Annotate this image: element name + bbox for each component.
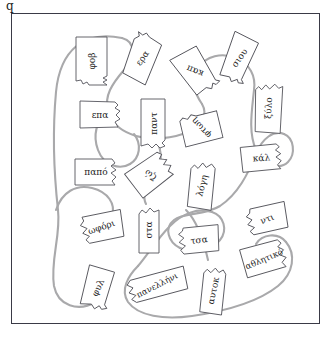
card-field: φοβ ερα καπ σιου ξύλο επα: [12, 14, 319, 323]
word-card[interactable]: ξύλο: [253, 82, 284, 135]
word-card[interactable]: λόγη: [185, 160, 218, 212]
screenshot-canvas: q: [0, 0, 332, 337]
word-card[interactable]: επα: [79, 100, 121, 129]
word-card[interactable]: καπ: [168, 41, 222, 100]
word-card[interactable]: ζώ: [121, 148, 179, 202]
puzzle-frame: φοβ ερα καπ σιου ξύλο επα: [11, 13, 320, 324]
word-card[interactable]: ωφόρι: [77, 208, 127, 245]
word-card[interactable]: ντι: [244, 200, 291, 236]
word-card[interactable]: αυτοκ: [199, 265, 228, 316]
word-card[interactable]: φυλ: [79, 262, 117, 312]
corner-mark-label: q: [6, 0, 22, 12]
word-card[interactable]: ερα: [120, 29, 165, 88]
word-card[interactable]: παντ: [140, 98, 166, 149]
word-card[interactable]: στα: [138, 206, 160, 254]
word-card[interactable]: αθλητικό: [238, 238, 290, 281]
word-card[interactable]: παπό: [74, 158, 118, 186]
word-card[interactable]: φτωη: [174, 104, 228, 153]
word-card[interactable]: σιου: [218, 29, 262, 87]
word-card[interactable]: φοβ: [75, 36, 108, 86]
word-card[interactable]: κάλ: [239, 143, 284, 174]
word-card[interactable]: πανελλήνι: [124, 265, 190, 305]
word-card[interactable]: τσα: [177, 224, 221, 256]
